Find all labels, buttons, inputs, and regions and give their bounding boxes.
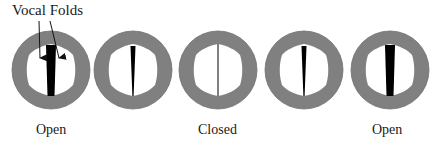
vocal-folds-diagram: Vocal Folds Open Closed Open	[0, 0, 437, 145]
glottal-gap	[46, 45, 56, 96]
label-closed: Closed	[198, 123, 237, 137]
glottis-ring-5	[351, 31, 429, 109]
label-open-left: Open	[36, 123, 66, 137]
label-open-right: Open	[372, 123, 402, 137]
glottis-ring-3	[179, 31, 257, 109]
glottis-ring-1	[12, 31, 90, 109]
glottal-gap	[218, 44, 219, 96]
glottal-gap	[385, 45, 395, 96]
glottis-ring-2	[94, 31, 172, 109]
glottis-ring-4	[265, 31, 343, 109]
vocal-folds-title: Vocal Folds	[12, 3, 83, 18]
